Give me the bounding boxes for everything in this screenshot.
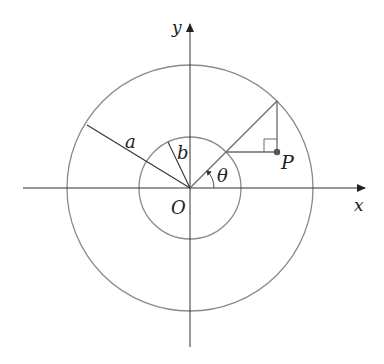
diagram-canvas bbox=[0, 0, 384, 364]
y-axis-label: y bbox=[172, 19, 182, 36]
theta-label: θ bbox=[217, 167, 228, 185]
origin-label: O bbox=[171, 199, 186, 217]
theta-arc bbox=[207, 171, 214, 188]
x-axis-label: x bbox=[354, 197, 364, 214]
point-p-label: P bbox=[281, 153, 294, 172]
diagram: y x O a b θ P bbox=[0, 0, 384, 364]
radius-a-label: a bbox=[125, 133, 136, 151]
radius-b-label: b bbox=[177, 144, 189, 162]
point-p bbox=[274, 149, 280, 155]
